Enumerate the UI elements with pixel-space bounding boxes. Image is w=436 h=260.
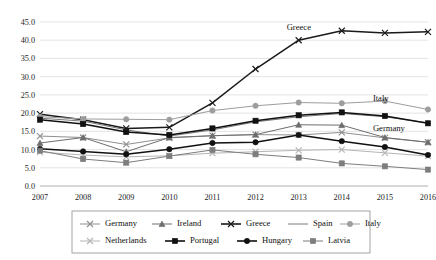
y-axis-tick-label: 20.0 xyxy=(21,109,35,118)
data-point-marker xyxy=(339,161,344,166)
data-point-marker xyxy=(37,148,42,153)
legend-item-portugal[interactable]: Portugal xyxy=(165,235,220,245)
data-point-marker xyxy=(296,100,301,105)
y-axis-tick-label: 0.0 xyxy=(25,182,35,191)
data-point-marker xyxy=(167,146,172,151)
data-point-marker xyxy=(253,118,258,123)
legend-item-ireland[interactable]: Ireland xyxy=(152,218,202,228)
legend-item-netherlands[interactable]: Netherlands xyxy=(80,235,147,245)
data-point-marker xyxy=(210,140,215,145)
series-latvia xyxy=(37,147,430,172)
data-point-marker xyxy=(425,152,430,157)
y-axis-tick-label: 5.0 xyxy=(25,164,35,173)
data-point-marker xyxy=(124,152,129,157)
data-point-marker xyxy=(80,116,85,121)
series-line xyxy=(40,101,428,120)
data-point-marker xyxy=(425,107,430,112)
legend-item-latvia[interactable]: Latvia xyxy=(303,235,350,245)
x-axis-tick-label: 2013 xyxy=(290,193,306,202)
x-axis-tick-label: 2012 xyxy=(247,193,263,202)
legend-item-spain[interactable]: Spain xyxy=(288,218,333,228)
data-point-marker xyxy=(382,144,387,149)
series-line xyxy=(40,31,428,129)
x-axis-tick-label: 2010 xyxy=(161,193,177,202)
data-point-marker xyxy=(382,113,387,118)
data-point-marker xyxy=(210,126,215,131)
y-axis-tick-label: 35.0 xyxy=(21,54,35,63)
legend-item-italy[interactable]: Italy xyxy=(340,218,381,228)
x-axis-tick-label: 2008 xyxy=(75,193,91,202)
data-point-marker xyxy=(253,152,258,157)
series-italy xyxy=(37,98,430,122)
y-axis-tick-label: 40.0 xyxy=(21,36,35,45)
annotation-greece: Greece xyxy=(287,22,312,32)
data-point-marker xyxy=(310,238,315,243)
legend-item-label: Netherlands xyxy=(105,235,147,245)
chart-container: 0.05.010.015.020.025.030.035.040.045.020… xyxy=(0,0,436,260)
data-point-marker xyxy=(339,110,344,115)
legend-item-label: Spain xyxy=(313,218,333,228)
series-netherlands xyxy=(37,147,431,160)
line-chart: 0.05.010.015.020.025.030.035.040.045.020… xyxy=(0,0,436,260)
x-axis-tick-label: 2016 xyxy=(420,193,436,202)
x-axis-tick-label: 2015 xyxy=(377,193,393,202)
x-axis-tick-label: 2007 xyxy=(32,193,48,202)
data-point-marker xyxy=(425,167,430,172)
data-point-marker xyxy=(296,132,301,137)
legend-item-label: Ireland xyxy=(177,218,202,228)
legend-item-label: Italy xyxy=(365,218,381,228)
legend-item-hungary[interactable]: Hungary xyxy=(237,235,293,245)
data-point-marker xyxy=(382,164,387,169)
data-point-marker xyxy=(81,121,86,126)
data-point-marker xyxy=(167,154,172,159)
series-line xyxy=(40,125,428,152)
data-point-marker xyxy=(347,221,352,226)
legend-item-label: Latvia xyxy=(328,235,350,245)
data-point-marker xyxy=(244,238,249,243)
data-point-marker xyxy=(210,108,215,113)
series-line xyxy=(40,150,428,157)
x-axis-tick-label: 2009 xyxy=(118,193,134,202)
data-point-marker xyxy=(124,129,129,134)
data-point-marker xyxy=(339,101,344,106)
legend-item-label: Germany xyxy=(105,218,138,228)
data-point-marker xyxy=(124,160,129,165)
y-axis-tick-label: 30.0 xyxy=(21,73,35,82)
legend-item-label: Hungary xyxy=(262,235,293,245)
y-axis-tick-label: 45.0 xyxy=(21,18,35,27)
x-axis-tick-label: 2011 xyxy=(204,193,220,202)
y-axis-tick-label: 10.0 xyxy=(21,146,35,155)
legend-item-label: Portugal xyxy=(190,235,220,245)
legend-item-label: Greece xyxy=(246,218,271,228)
legend-item-greece[interactable]: Greece xyxy=(221,218,271,228)
data-point-marker xyxy=(167,117,172,122)
data-point-marker xyxy=(81,156,86,161)
data-point-marker xyxy=(124,117,129,122)
data-point-marker xyxy=(253,103,258,108)
x-axis-tick-label: 2014 xyxy=(334,193,350,202)
data-point-marker xyxy=(172,238,177,243)
data-point-marker xyxy=(37,117,42,122)
annotation-germany: Germany xyxy=(373,123,406,133)
data-point-marker xyxy=(339,138,344,143)
y-axis-tick-label: 25.0 xyxy=(21,91,35,100)
data-point-marker xyxy=(167,132,172,137)
data-point-marker xyxy=(296,155,301,160)
data-point-marker xyxy=(210,147,215,152)
data-point-marker xyxy=(425,121,430,126)
y-axis-tick-label: 15.0 xyxy=(21,127,35,136)
data-point-marker xyxy=(296,113,301,118)
data-point-marker xyxy=(253,140,258,145)
annotation-italy: Italy xyxy=(373,93,389,103)
legend-item-germany[interactable]: Germany xyxy=(80,218,138,228)
data-point-marker xyxy=(80,149,85,154)
